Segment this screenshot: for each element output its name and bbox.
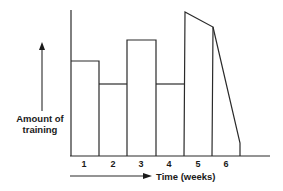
x-axis-title: Time (weeks) bbox=[156, 171, 216, 182]
week-label-1: 1 bbox=[81, 159, 86, 169]
up-arrow-icon bbox=[39, 42, 45, 50]
bar-week-3 bbox=[127, 40, 156, 156]
right-arrow-icon bbox=[143, 173, 152, 179]
training-chart: 1 2 3 4 5 6 Time (weeks) bbox=[0, 0, 283, 191]
week-label-5: 5 bbox=[195, 159, 200, 169]
week-label-6: 6 bbox=[223, 159, 228, 169]
y-axis-title-line2: training bbox=[10, 124, 70, 135]
bar-week-6 bbox=[213, 27, 240, 156]
y-axis-title: Amount of training bbox=[10, 113, 70, 135]
bar-week-5 bbox=[184, 12, 213, 156]
week-label-4: 4 bbox=[166, 159, 171, 169]
y-axis-title-line1: Amount of bbox=[10, 113, 70, 124]
week-label-2: 2 bbox=[110, 159, 115, 169]
week-label-3: 3 bbox=[138, 159, 143, 169]
bar-week-1 bbox=[71, 61, 99, 156]
